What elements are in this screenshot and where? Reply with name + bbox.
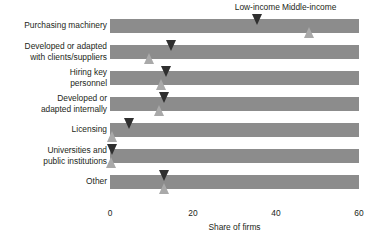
x-tick-label: 0 <box>108 208 113 218</box>
category-bar <box>110 175 359 189</box>
marker-middle-income <box>159 183 169 194</box>
marker-middle-income <box>144 53 154 64</box>
marker-low-income <box>252 14 262 25</box>
category-bar <box>110 149 359 163</box>
marker-low-income <box>159 170 169 181</box>
category-label: Developed or adapted with clients/suppli… <box>3 41 107 61</box>
category-label: Developed or adapted internally <box>3 93 107 113</box>
chart-container: Low-income Middle-income Purchasing mach… <box>0 0 374 247</box>
marker-middle-income <box>304 27 314 38</box>
category-label: Licensing <box>3 124 107 134</box>
category-bar <box>110 123 359 137</box>
marker-low-income <box>166 40 176 51</box>
category-label: Purchasing machinery <box>3 20 107 30</box>
category-label: Universities and public institutions <box>3 145 107 165</box>
category-label: Hiring key personnel <box>3 67 107 87</box>
category-bar <box>110 97 359 111</box>
x-tick-label: 60 <box>354 208 363 218</box>
plot-area <box>110 0 359 247</box>
marker-low-income <box>124 118 134 129</box>
x-tick-label: 20 <box>188 208 197 218</box>
x-axis-title: Share of firms <box>110 222 359 232</box>
marker-middle-income <box>106 157 116 168</box>
category-bar <box>110 71 359 85</box>
marker-middle-income <box>107 131 117 142</box>
category-label: Other <box>3 176 107 186</box>
marker-low-income <box>161 66 171 77</box>
category-bar <box>110 19 359 33</box>
x-tick-label: 40 <box>271 208 280 218</box>
marker-middle-income <box>154 105 164 116</box>
marker-low-income <box>159 92 169 103</box>
marker-low-income <box>107 144 117 155</box>
marker-middle-income <box>156 79 166 90</box>
